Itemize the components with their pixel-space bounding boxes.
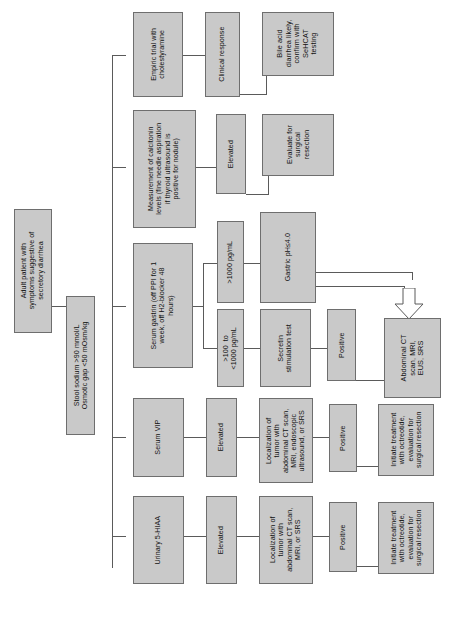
connector-elevated-to-resection-a (246, 194, 268, 195)
node-serum-gastrin[interactable]: Serum gastrin (off PPI for 1 week, off H… (133, 243, 193, 368)
node-vip-positive-label: Positive (339, 425, 347, 450)
connector-ph-to-arrow-rail-1 (316, 272, 412, 273)
node-hiaa-treatment[interactable]: Initiate treatment with octreotide, eval… (378, 502, 434, 574)
node-start-label: Adult patient with symptoms suggestive o… (20, 232, 45, 310)
connector-cholestyramine-to-response (183, 55, 205, 56)
node-calcitonin-elevated[interactable]: Elevated (216, 114, 246, 194)
node-evaluate-surgical-resection[interactable]: Evaluate for surgical resection (262, 114, 334, 176)
node-gastrin-high-label: >1000 pg/mL (226, 241, 234, 283)
connector-ph-to-arrow-rail-3 (412, 272, 413, 280)
node-start[interactable]: Adult patient with symptoms suggestive o… (14, 209, 52, 333)
node-calcitonin[interactable]: Measurement of calcitonin levels (fine n… (133, 110, 196, 228)
connector-spine-to-hiaa (112, 536, 126, 537)
node-hiaa-localization[interactable]: Localization of tumor with abdominal CT … (259, 496, 313, 584)
connector-vipelevated-to-localization (237, 437, 259, 438)
node-abdominal-ct[interactable]: Abdominal CT scan, MRI, EUS, SRS (384, 318, 441, 398)
connector-viploc-to-positive (313, 437, 329, 438)
node-hiaa-positive[interactable]: Positive (329, 502, 357, 572)
node-serum-vip[interactable]: Serum VIP (133, 398, 184, 477)
node-bile-acid-diarrhea-label: Bile acid diarrhea likely, confirm with … (276, 20, 319, 68)
connector-gastrin-out (193, 306, 203, 307)
node-gastrin-mid[interactable]: >100 to <1000 pg/mL (217, 309, 244, 387)
node-abdominal-ct-label: Abdominal CT scan, MRI, EUS, SRS (400, 334, 426, 381)
node-clinical-response[interactable]: Clinical response (205, 12, 240, 97)
block-arrow-to-abdominal-ct (393, 288, 425, 320)
connector-secretin-to-positive (311, 348, 327, 349)
node-secretin-positive-label: Positive (337, 332, 345, 357)
flowchart-canvas: Adult patient with symptoms suggestive o… (0, 0, 469, 627)
node-serum-gastrin-label: Serum gastrin (off PPI for 1 week, off H… (150, 262, 175, 350)
node-vip-elevated[interactable]: Elevated (206, 398, 237, 477)
node-hiaa-elevated[interactable]: Elevated (206, 496, 237, 584)
node-bile-acid-diarrhea[interactable]: Bile acid diarrhea likely, confirm with … (262, 12, 334, 76)
connector-hiaaloc-to-positive (313, 536, 329, 537)
connector-vip-to-elevated (184, 437, 206, 438)
node-hiaa-positive-label: Positive (339, 524, 347, 549)
node-criteria-label: Stool sodium >90 mmol/L Osmotic gap <50 … (72, 322, 89, 410)
node-vip-localization-label: Localization of tumor with abdominal CT … (265, 408, 307, 472)
node-urinary-5hiaa[interactable]: Urinary 5-HIAA (133, 496, 184, 584)
connector-mid-to-secretin (244, 348, 260, 349)
node-calcitonin-label: Measurement of calcitonin levels (fine n… (148, 123, 181, 215)
node-gastrin-mid-label: >100 to <1000 pg/mL (222, 327, 239, 369)
node-cholestyramine[interactable]: Empiric trial with cholestyramine (133, 12, 183, 97)
node-vip-positive[interactable]: Positive (329, 404, 357, 472)
node-vip-localization[interactable]: Localization of tumor with abdominal CT … (259, 398, 313, 483)
connector-response-to-bileacid-a (240, 94, 266, 95)
connector-response-to-bileacid-b (266, 75, 267, 95)
node-hiaa-elevated-label: Elevated (217, 526, 225, 554)
node-vip-treatment[interactable]: Initiate treatment with octreotide, eval… (378, 404, 434, 476)
node-calcitonin-elevated-label: Elevated (227, 140, 235, 168)
node-secretin-test[interactable]: Secretin stimulation test (260, 309, 311, 387)
connector-start-to-criteria (52, 306, 66, 307)
connector-hiaa-to-elevated (184, 536, 206, 537)
node-criteria[interactable]: Stool sodium >90 mmol/L Osmotic gap <50 … (66, 296, 95, 435)
node-gastric-ph-label: Gastric pH≤4.0 (284, 233, 292, 281)
node-urinary-5hiaa-label: Urinary 5-HIAA (154, 516, 162, 565)
connector-spine-to-cholestyramine (112, 55, 126, 56)
node-hiaa-treatment-label: Initiate treatment with octreotide, eval… (389, 510, 422, 566)
connector-spine-to-vip (112, 437, 126, 438)
connector-spine-to-gastrin (112, 306, 126, 307)
connector-gastrin-fork (203, 263, 204, 348)
connector-gastrin-to-mid (203, 348, 217, 349)
node-vip-treatment-label: Initiate treatment with octreotide, eval… (389, 412, 422, 468)
node-serum-vip-label: Serum VIP (154, 420, 162, 455)
connector-gastrin-to-high (203, 263, 217, 264)
node-gastrin-high[interactable]: >1000 pg/mL (217, 221, 244, 303)
node-vip-elevated-label: Elevated (217, 423, 225, 451)
connector-calcitonin-to-elevated (196, 167, 216, 168)
node-clinical-response-label: Clinical response (218, 27, 226, 82)
node-secretin-positive[interactable]: Positive (327, 309, 356, 381)
connector-positive-to-ct-a (356, 380, 384, 381)
node-evaluate-surgical-resection-label: Evaluate for surgical resection (285, 126, 310, 165)
node-cholestyramine-label: Empiric trial with cholestyramine (150, 28, 167, 81)
connector-elevated-to-resection-b (268, 175, 269, 195)
connector-high-to-ph (244, 263, 260, 264)
branch-spine-main (112, 55, 113, 568)
node-hiaa-localization-label: Localization of tumor with abdominal CT … (269, 508, 302, 572)
node-gastric-ph[interactable]: Gastric pH≤4.0 (260, 212, 316, 303)
connector-ph-to-arrow-rail-2 (316, 286, 404, 287)
connector-hiaaelevated-to-localization (237, 536, 259, 537)
connector-spine-to-calcitonin (112, 167, 126, 168)
node-secretin-test-label: Secretin stimulation test (277, 324, 294, 372)
